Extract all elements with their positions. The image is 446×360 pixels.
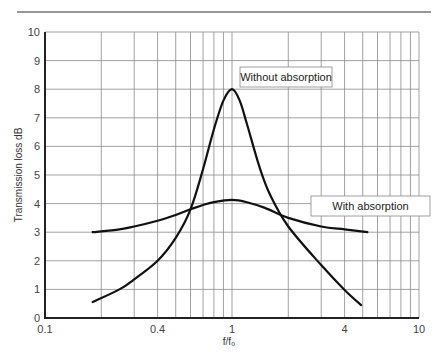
grid-lines: [45, 32, 419, 318]
y-tick-label: 6: [34, 140, 40, 152]
y-tick-label: 1: [34, 283, 40, 295]
y-tick-label: 9: [34, 55, 40, 67]
tick-labels: 0123456789100.10.41410: [28, 26, 425, 335]
label-box-without-absorption: Without absorption: [240, 67, 332, 87]
x-axis-label: f/f₀: [223, 336, 236, 347]
y-axis-label: Transmission loss dB: [13, 127, 24, 222]
y-tick-label: 5: [34, 169, 40, 181]
x-tick-label: 0.4: [150, 323, 165, 335]
x-tick-label: 4: [342, 323, 348, 335]
y-tick-label: 10: [28, 26, 40, 38]
x-tick-label: 1: [229, 323, 235, 335]
label-box-with-absorption: With absorption: [311, 196, 430, 216]
y-tick-label: 4: [34, 198, 40, 210]
svg-text:Without absorption: Without absorption: [240, 71, 332, 83]
x-tick-label: 10: [413, 323, 425, 335]
y-tick-label: 7: [34, 112, 40, 124]
transmission-loss-chart: 0123456789100.10.41410 Without absorptio…: [0, 0, 446, 360]
y-tick-label: 3: [34, 226, 40, 238]
x-tick-label: 0.1: [37, 323, 52, 335]
svg-text:With absorption: With absorption: [332, 200, 408, 212]
y-tick-label: 2: [34, 255, 40, 267]
y-tick-label: 8: [34, 83, 40, 95]
